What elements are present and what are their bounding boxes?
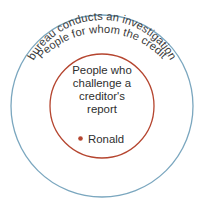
inner-set-label-line-2: challenge a: [73, 77, 132, 89]
inner-set-label-line-3: creditor's: [79, 90, 125, 102]
inner-set-label-line-4: report: [87, 103, 118, 115]
inner-set-label-line-1: People who: [72, 64, 132, 76]
dot-marker-icon: [78, 136, 83, 141]
venn-diagram-canvas: People for whom the credit bureau conduc…: [0, 0, 204, 213]
member-label-ronald: Ronald: [88, 133, 124, 145]
concentric-set-diagram: People for whom the credit bureau conduc…: [0, 0, 204, 213]
